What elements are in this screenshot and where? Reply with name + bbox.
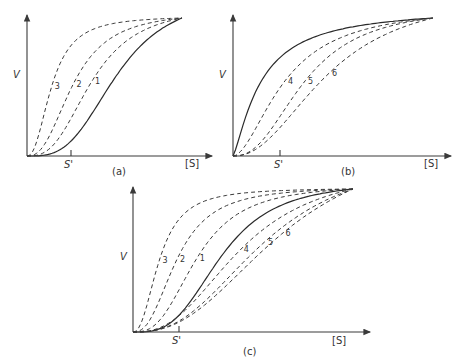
panel-a-curve-3 (27, 18, 182, 156)
panel-a-curve-label-1: 1 (95, 77, 100, 86)
panel-a-curve-2 (27, 18, 182, 156)
panel-a-caption: (a) (112, 166, 126, 177)
panel-a-curves: 123 (27, 18, 182, 156)
panel-a-curve-1 (27, 18, 182, 156)
panel-c-x-label: [S] (332, 335, 346, 346)
panel-b-curve-4 (233, 18, 433, 156)
panel-a-s-marker-label: S' (64, 159, 73, 170)
panel-a: 123 V S' [S] (a) (13, 15, 212, 177)
panel-c-curve-label-3: 3 (162, 256, 167, 265)
panel-a-curve-label-2: 2 (77, 80, 82, 89)
panel-b-curve-label-5: 5 (308, 77, 313, 86)
panel-c-curve-label-4: 4 (244, 245, 249, 254)
panel-b-curves: 456 (233, 18, 433, 156)
panel-b-caption: (b) (341, 166, 355, 177)
panel-b-curve-reference (233, 18, 433, 156)
panel-a-curve-label-3: 3 (55, 82, 60, 91)
panel-b-curve-6 (233, 18, 433, 156)
panel-c-curve-label-6: 6 (286, 229, 291, 238)
panel-b-curve-label-4: 4 (288, 77, 293, 86)
panel-b-curve-label-6: 6 (332, 69, 337, 78)
kinetics-figure: 123 V S' [S] (a) 456 V S' [S] (b) 123456… (0, 0, 462, 363)
panel-c-s-marker-label: S' (172, 335, 181, 346)
panel-b-x-label: [S] (424, 158, 438, 169)
panel-b-s-marker-label: S' (274, 159, 283, 170)
panel-c-curve-label-1: 1 (200, 254, 205, 263)
panel-a-curve-reference (27, 18, 182, 156)
panel-c: 123456 V S' [S] (c) (120, 187, 370, 357)
panel-a-x-label: [S] (185, 158, 199, 169)
panel-b-y-label: V (219, 69, 227, 80)
panel-b-curve-5 (233, 18, 433, 156)
panel-c-curve-label-2: 2 (180, 255, 185, 264)
panel-b: 456 V S' [S] (b) (219, 15, 451, 177)
panel-c-y-label: V (120, 251, 128, 262)
panel-a-y-label: V (13, 69, 21, 80)
panel-c-curves: 123456 (133, 189, 353, 332)
panel-c-caption: (c) (243, 346, 256, 357)
